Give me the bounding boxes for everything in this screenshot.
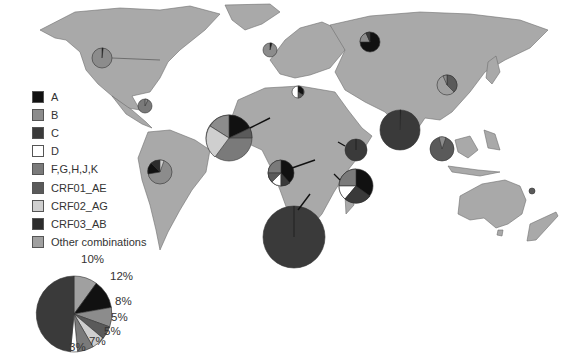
swatch-crf01-ae	[32, 182, 44, 194]
pct-label-crf01: 5%	[111, 311, 128, 323]
legend-label: CRF01_AE	[51, 182, 107, 194]
swatch-d	[32, 145, 44, 157]
legend-item-crf03-ab: CRF03_AB	[32, 215, 146, 233]
new-zealand	[527, 212, 558, 241]
pct-label-d: 3%	[69, 341, 86, 353]
legend: A B C D F,G,H,J,K CRF01_AE CRF02_AG CRF0…	[32, 88, 146, 251]
greenland	[225, 4, 280, 30]
pct-label-crf02: 5%	[104, 325, 121, 337]
pct-label-fghjk: 7%	[89, 335, 106, 347]
australia	[458, 180, 526, 228]
legend-label: CRF03_AB	[51, 218, 107, 230]
legend-item-c: C	[32, 124, 146, 142]
swatch-crf02-ag	[32, 200, 44, 212]
swatch-other	[32, 236, 44, 248]
swatch-crf03-ab	[32, 218, 44, 230]
legend-item-crf02-ag: CRF02_AG	[32, 197, 146, 215]
tasmania	[497, 230, 503, 236]
legend-item-a: A	[32, 88, 146, 106]
legend-label: A	[51, 91, 58, 103]
asia	[330, 12, 548, 140]
south-america	[138, 130, 210, 250]
pct-label-other: 10%	[81, 253, 104, 265]
swatch-a	[32, 91, 44, 103]
legend-label: Other combinations	[51, 236, 146, 248]
pct-label-b: 8%	[115, 295, 132, 307]
legend-item-other: Other combinations	[32, 233, 146, 251]
legend-label: CRF02_AG	[51, 200, 108, 212]
maritime-southeast-asia	[448, 130, 500, 176]
swatch-c	[32, 127, 44, 139]
legend-label: F,G,H,J,K	[51, 163, 98, 175]
pie-oceania	[529, 188, 535, 194]
pct-label-a: 12%	[110, 270, 133, 282]
swatch-fghjk	[32, 163, 44, 175]
legend-label: B	[51, 109, 58, 121]
legend-item-d: D	[32, 142, 146, 160]
legend-item-b: B	[32, 106, 146, 124]
legend-item-fghjk: F,G,H,J,K	[32, 160, 146, 178]
legend-label: C	[51, 127, 59, 139]
legend-item-crf01-ae: CRF01_AE	[32, 178, 146, 196]
legend-label: D	[51, 145, 59, 157]
swatch-b	[32, 109, 44, 121]
